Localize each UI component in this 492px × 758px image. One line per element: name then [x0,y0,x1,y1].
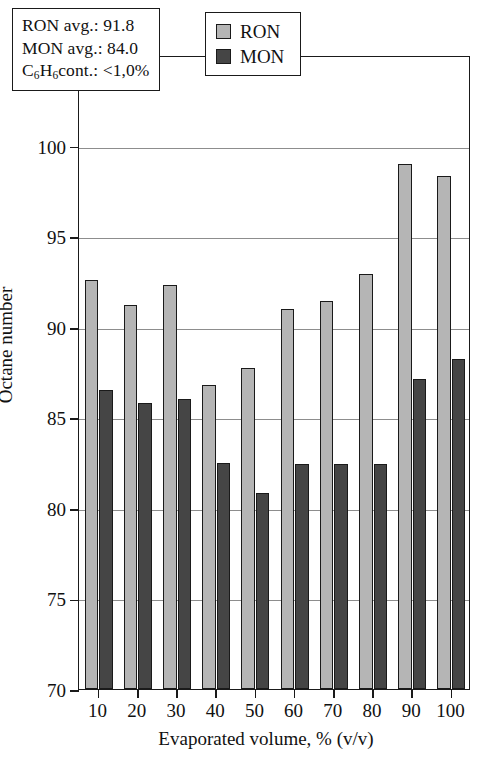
y-axis-tick-label: 70 [47,681,66,700]
x-axis-tick [176,689,178,698]
x-axis-tick [137,689,139,698]
y-axis-tick [70,509,79,511]
x-axis-tick-label: 40 [206,700,225,722]
legend-item-mon: MON [216,44,284,69]
bar-ron-60 [281,309,295,689]
bar-mon-30 [178,399,192,689]
legend-swatch-ron-icon [216,24,231,39]
x-axis-title: Evaporated volume, % (v/v) [0,728,492,750]
y-axis-tick [70,690,79,692]
bar-ron-40 [202,385,216,689]
x-axis-tick [411,689,413,698]
x-axis-tick-label: 80 [363,700,382,722]
x-axis-tick-label: 90 [402,700,421,722]
y-axis-tick [70,328,79,330]
x-axis-tick-label: 30 [167,700,186,722]
y-axis-tick-label: 75 [47,590,66,609]
y-axis-tick [70,147,79,149]
bar-ron-100 [437,176,451,689]
bar-ron-70 [320,301,334,689]
x-axis-tick-label: 50 [245,700,264,722]
x-axis-tick [372,689,374,698]
bar-ron-30 [163,285,177,689]
x-axis-tick-labels: 102030405060708090100 [0,700,492,730]
annotation-benzene-content: C6H6cont.: <1,0% [22,59,150,84]
x-axis-title-text: Evaporated volume, % (v/v) [118,728,373,749]
y-axis-tick-labels: 707580859095100105 [0,0,78,758]
bar-ron-80 [359,274,373,689]
x-axis-tick-label: 20 [127,700,146,722]
y-axis-tick-label: 85 [47,409,66,428]
bar-mon-10 [99,390,113,689]
y-axis-tick [70,600,79,602]
bar-ron-20 [124,305,138,689]
legend-swatch-mon-icon [216,49,231,64]
y-axis-tick [70,418,79,420]
x-axis-tick-label: 100 [436,700,465,722]
y-axis-tick-label: 95 [47,228,66,247]
bar-mon-60 [295,464,309,689]
x-axis-tick [294,689,296,698]
legend: RON MON [205,12,301,76]
x-axis-tick [255,689,257,698]
legend-item-ron: RON [216,19,284,44]
legend-label-mon: MON [240,47,284,66]
x-axis-tick [451,689,453,698]
x-axis-tick [333,689,335,698]
bar-ron-50 [241,368,255,689]
bar-mon-70 [334,464,348,689]
y-axis-tick-label: 80 [47,499,66,518]
x-axis-tick-label: 60 [284,700,303,722]
figure-panel-b: (b) Octane number 707580859095100105 102… [0,0,492,758]
bar-ron-10 [85,280,99,689]
x-axis-tick [98,689,100,698]
annotation-box: RON avg.: 91.8 MON avg.: 84.0 C6H6cont.:… [12,8,160,91]
x-axis-tick-label: 10 [88,700,107,722]
bar-mon-100 [452,359,466,689]
legend-label-ron: RON [240,22,280,41]
y-axis-tick-label: 90 [47,318,66,337]
gridline [79,148,469,149]
bar-mon-50 [256,493,270,689]
y-axis-tick-label: 100 [38,137,67,156]
bar-mon-40 [217,463,231,689]
annotation-ron-avg: RON avg.: 91.8 [22,14,150,37]
bar-mon-90 [413,379,427,689]
x-axis-tick [215,689,217,698]
bar-mon-80 [374,464,388,689]
y-axis-tick [70,237,79,239]
bar-ron-90 [398,164,412,689]
plot-area [78,56,470,690]
annotation-mon-avg: MON avg.: 84.0 [22,37,150,60]
x-axis-tick-label: 70 [323,700,342,722]
bar-mon-20 [138,403,152,689]
